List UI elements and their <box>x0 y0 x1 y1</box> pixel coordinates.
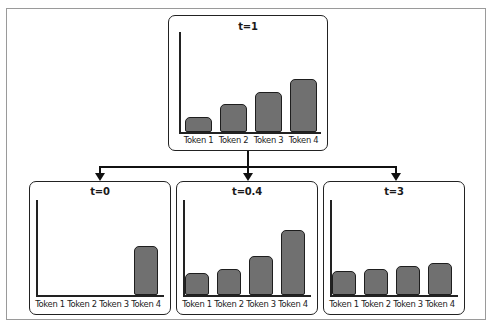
bar-token-3 <box>396 266 420 295</box>
panel-title: t=0 <box>30 186 170 197</box>
chart-panel-middle: t=0.4Token 1Token 2Token 3Token 4 <box>176 181 318 315</box>
x-axis <box>330 295 458 297</box>
token-label: Token 3 <box>390 299 426 309</box>
token-label: Token 1 <box>326 299 362 309</box>
arrow-down-icon <box>391 173 401 181</box>
token-label: Token 2 <box>211 299 247 309</box>
token-label: Token 2 <box>64 299 100 309</box>
bar-token-1 <box>185 117 212 132</box>
x-axis <box>183 295 311 297</box>
bar-token-3 <box>255 92 282 132</box>
token-label: Token 3 <box>243 299 279 309</box>
token-label: Token 1 <box>179 299 215 309</box>
bar-token-4 <box>281 230 305 295</box>
chart-panel-top: t=1Token 1Token 2Token 3Token 4 <box>168 15 328 151</box>
token-label: Token 3 <box>249 135 288 145</box>
token-label: Token 1 <box>32 299 68 309</box>
bar-token-4 <box>290 79 317 132</box>
x-axis <box>36 295 164 297</box>
y-axis <box>179 32 181 132</box>
x-axis <box>179 132 321 134</box>
connector-trunk <box>247 150 249 167</box>
panel-title: t=0.4 <box>177 186 317 197</box>
chart-panel-right: t=3Token 1Token 2Token 3Token 4 <box>323 181 465 315</box>
panel-title: t=1 <box>169 21 327 32</box>
y-axis <box>36 200 38 295</box>
bar-token-2 <box>217 269 241 295</box>
bar-token-2 <box>364 269 388 295</box>
token-label: Token 4 <box>284 135 323 145</box>
panel-title: t=3 <box>324 186 464 197</box>
chart-panel-left: t=0Token 1Token 2Token 3Token 4 <box>29 181 171 315</box>
token-label: Token 4 <box>275 299 311 309</box>
token-label: Token 2 <box>358 299 394 309</box>
arrow-down-icon <box>95 173 105 181</box>
token-label: Token 3 <box>96 299 132 309</box>
token-label: Token 2 <box>214 135 253 145</box>
token-label: Token 4 <box>128 299 164 309</box>
bar-token-4 <box>428 263 452 295</box>
bar-token-4 <box>134 246 158 295</box>
bar-token-2 <box>220 104 247 132</box>
bar-token-1 <box>332 271 356 295</box>
token-label: Token 1 <box>179 135 218 145</box>
token-label: Token 4 <box>422 299 458 309</box>
bar-token-3 <box>249 256 273 295</box>
bar-token-1 <box>185 273 209 295</box>
arrow-down-icon <box>243 173 253 181</box>
